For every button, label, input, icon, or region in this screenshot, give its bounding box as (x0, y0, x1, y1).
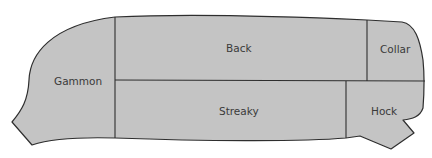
bacon-cuts-diagram: Gammon Back Collar Streaky Hock (0, 0, 432, 158)
label-gammon: Gammon (54, 75, 102, 87)
label-back: Back (226, 42, 252, 54)
label-streaky: Streaky (219, 105, 259, 117)
label-collar: Collar (380, 43, 411, 55)
label-hock: Hock (371, 105, 398, 117)
